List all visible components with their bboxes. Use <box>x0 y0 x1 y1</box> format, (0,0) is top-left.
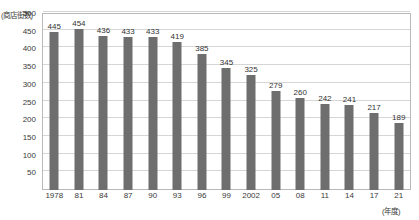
bar-item: 454 <box>67 13 92 190</box>
x-axis-tick-label: 21 <box>394 191 403 200</box>
y-axis-tick-label: 400 <box>23 44 36 53</box>
y-axis-tick-label: 300 <box>23 79 36 88</box>
bar-item: 385 <box>190 13 215 190</box>
bar <box>124 37 133 190</box>
bar-item: 241 <box>337 13 362 190</box>
bar <box>394 123 403 190</box>
bar <box>247 75 256 190</box>
bar <box>197 54 206 190</box>
x-axis-tick-label: 08 <box>296 191 305 200</box>
bar-series: 4454544364334334193853453252792602422412… <box>42 13 411 190</box>
bar-value-label: 445 <box>48 22 61 31</box>
y-axis-tick-label: 450 <box>23 26 36 35</box>
y-axis-tick-label: 50 <box>27 168 36 177</box>
bar-value-label: 189 <box>392 113 405 122</box>
x-axis-tick-label: 17 <box>370 191 379 200</box>
bar <box>271 91 280 190</box>
bar-item: 345 <box>214 13 239 190</box>
bar <box>296 98 305 190</box>
bar <box>320 104 329 190</box>
bar-value-label: 433 <box>146 27 159 36</box>
x-axis-tick-label: 2002 <box>242 191 260 200</box>
bar <box>50 32 59 190</box>
bar-value-label: 260 <box>294 88 307 97</box>
x-axis-tick-label: 99 <box>222 191 231 200</box>
bar-value-label: 345 <box>220 58 233 67</box>
x-axis-tick-label: 05 <box>271 191 280 200</box>
x-axis-tick-label: 84 <box>99 191 108 200</box>
y-axis-tick-labels: 50045040035030025020015010050 <box>0 13 40 190</box>
bar-item: 436 <box>91 13 116 190</box>
y-axis-tick-label: 500 <box>23 9 36 18</box>
bar-item: 242 <box>313 13 338 190</box>
bar-value-label: 454 <box>72 19 85 28</box>
bar-item: 419 <box>165 13 190 190</box>
bar <box>173 42 182 190</box>
gridline <box>43 11 410 12</box>
x-axis-tick-label: 1978 <box>45 191 63 200</box>
bar <box>345 105 354 190</box>
bar-item: 260 <box>288 13 313 190</box>
y-axis-tick-label: 100 <box>23 150 36 159</box>
bar-item: 445 <box>42 13 67 190</box>
chart-screenshot: (商店街数) 50045040035030025020015010050 445… <box>0 0 419 220</box>
bar-value-label: 279 <box>269 81 282 90</box>
bar-value-label: 385 <box>195 44 208 53</box>
bar <box>370 113 379 190</box>
x-axis-tick-label: 90 <box>148 191 157 200</box>
bar-value-label: 433 <box>121 27 134 36</box>
x-axis-title: (年度) <box>382 205 400 216</box>
bar-value-label: 325 <box>244 65 257 74</box>
y-axis-tick-label: 250 <box>23 97 36 106</box>
bar-item: 279 <box>263 13 288 190</box>
x-axis-tick-label: 11 <box>321 191 329 200</box>
bar-value-label: 419 <box>171 32 184 41</box>
x-axis-tick-label: 14 <box>345 191 354 200</box>
bar-value-label: 217 <box>367 103 380 112</box>
x-axis-tick-label: 93 <box>173 191 182 200</box>
bar <box>222 68 231 190</box>
y-axis-tick-label: 200 <box>23 115 36 124</box>
bar-item: 189 <box>386 13 411 190</box>
bar-item: 325 <box>239 13 264 190</box>
bar-item: 217 <box>362 13 387 190</box>
bar-value-label: 436 <box>97 26 110 35</box>
x-axis-tick-label: 96 <box>197 191 206 200</box>
x-axis-tick-label: 87 <box>124 191 133 200</box>
x-axis-tick-label: 81 <box>74 191 83 200</box>
bar-value-label: 242 <box>318 94 331 103</box>
bar <box>99 36 108 190</box>
bar <box>74 29 83 190</box>
y-axis-tick-label: 150 <box>23 132 36 141</box>
x-axis-tick-labels: 1978818487909396992002050811141721 <box>42 191 411 205</box>
bar-item: 433 <box>116 13 141 190</box>
y-axis-tick-label: 350 <box>23 62 36 71</box>
bar-item: 433 <box>140 13 165 190</box>
bar-value-label: 241 <box>343 95 356 104</box>
bar <box>148 37 157 190</box>
